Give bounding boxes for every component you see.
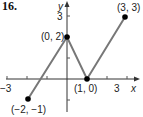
problem-number: 16. bbox=[2, 0, 17, 13]
point-1-0 bbox=[84, 76, 90, 82]
y-axis-arrow-icon bbox=[65, 1, 70, 7]
x-axis-arrow-icon bbox=[134, 77, 140, 82]
point-neg2-neg1 bbox=[25, 96, 31, 102]
point-label-neg2-neg1: (−2, −1) bbox=[11, 104, 46, 115]
point-3-3 bbox=[122, 14, 128, 20]
point-label-1-0: (1, 0) bbox=[74, 83, 97, 94]
point-0-2 bbox=[64, 34, 70, 40]
y-max-label: 3 bbox=[57, 11, 63, 22]
point-label-3-3: (3, 3) bbox=[117, 2, 140, 13]
x-axis-label: x bbox=[130, 83, 137, 94]
x-min-label: −3 bbox=[0, 83, 12, 94]
graph: 16. y x −3 3 3 (−2, −1) (0, 2) (1, 0) (3… bbox=[0, 0, 143, 117]
x-max-label: 3 bbox=[114, 83, 120, 94]
point-label-0-2: (0, 2) bbox=[41, 31, 64, 42]
